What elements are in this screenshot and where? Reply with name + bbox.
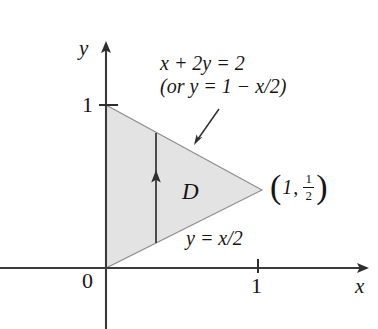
point-close-paren: ) (316, 173, 327, 200)
upper-boundary-equation: x + 2y = 2 (or y = 1 − x/2) (160, 53, 286, 96)
point-x-value: 1 (281, 177, 293, 197)
annotation-pointer-arrowhead-icon (194, 134, 203, 145)
upper-boundary-equation-line1: x + 2y = 2 (160, 53, 286, 73)
x-axis-label: x (355, 276, 364, 297)
origin-label: 0 (82, 270, 93, 292)
y-axis-tick-label-1: 1 (82, 94, 93, 116)
point-open-paren: ( (270, 173, 281, 200)
fraction-denominator: 2 (306, 189, 313, 203)
y-axis-label: y (79, 38, 88, 59)
x-axis-tick-label-1: 1 (251, 275, 262, 297)
math-region-diagram: y x 1 1 0 D x + 2y = 2 (or y = 1 − x/2) … (0, 0, 378, 329)
region-label-d: D (182, 180, 199, 203)
diagram-canvas (0, 0, 378, 329)
upper-boundary-equation-line2: (or y = 1 − x/2) (160, 76, 286, 96)
fraction-numerator: 1 (306, 172, 313, 186)
lower-boundary-equation: y = x/2 (186, 228, 243, 248)
annotation-pointer-arrow-icon (198, 109, 219, 139)
point-y-fraction: 1 2 (301, 172, 316, 202)
point-comma: , (293, 177, 301, 197)
vertex-point-label: ( 1 , 1 2 ) (270, 172, 328, 202)
